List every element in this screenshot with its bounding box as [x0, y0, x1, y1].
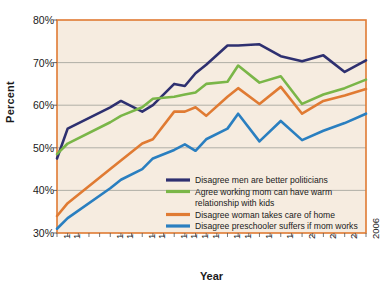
- legend-label: Disagree men are better politicians: [195, 175, 328, 185]
- legend-label: Disagree preschooler suffers if mom work…: [195, 221, 358, 231]
- legend-label-continued: relationship with kids: [195, 198, 274, 208]
- legend-label: Agree working mom can have warm: [195, 187, 332, 197]
- legend-label: Disagree woman takes care of home: [195, 210, 335, 220]
